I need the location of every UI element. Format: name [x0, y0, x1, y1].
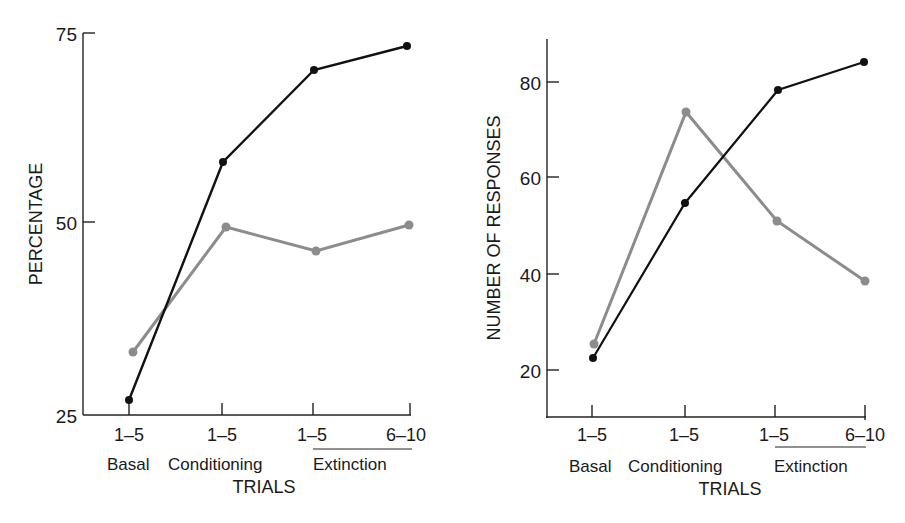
figure: 75 50 25 1–5 1–5 1–5 6–10 Basal Conditio…: [0, 0, 905, 523]
left-xtick-label: 6–10: [386, 425, 426, 445]
left-black-point: [219, 158, 227, 166]
right-black-series-line: [593, 62, 864, 358]
left-black-series-line: [129, 46, 407, 400]
left-gray-series-line: [133, 225, 409, 352]
right-xtick-label: 6–10: [845, 425, 885, 445]
left-phase-basal: Basal: [107, 455, 150, 474]
right-black-point: [774, 86, 782, 94]
left-black-point: [125, 396, 133, 404]
left-ytick-label: 25: [56, 406, 77, 427]
right-gray-series-line: [594, 112, 865, 344]
left-phase-extinction: Extinction: [313, 455, 387, 474]
left-chart: 75 50 25 1–5 1–5 1–5 6–10 Basal Conditio…: [26, 24, 426, 497]
left-gray-point: [222, 223, 231, 232]
right-ytick-label: 80: [520, 73, 541, 94]
right-ytick-label: 20: [520, 361, 541, 382]
left-black-point: [310, 66, 318, 74]
right-ytick-label: 60: [520, 168, 541, 189]
right-gray-point: [590, 340, 599, 349]
right-xtick-label: 1–5: [669, 425, 699, 445]
left-xtick-label: 1–5: [207, 425, 237, 445]
left-gray-point: [129, 348, 138, 357]
left-black-point: [403, 42, 411, 50]
left-gray-point: [312, 247, 321, 256]
right-ytick-label: 40: [520, 265, 541, 286]
right-gray-point: [861, 277, 870, 286]
right-phase-basal: Basal: [569, 457, 612, 476]
right-x-axis-title: TRIALS: [698, 479, 761, 499]
right-phase-conditioning: Conditioning: [628, 457, 723, 476]
right-gray-point: [773, 217, 782, 226]
right-black-point: [860, 58, 868, 66]
left-xtick-label: 1–5: [114, 425, 144, 445]
left-ytick-label: 50: [56, 213, 77, 234]
right-xtick-label: 1–5: [759, 425, 789, 445]
left-ytick-label: 75: [56, 24, 77, 45]
left-y-axis-title: PERCENTAGE: [26, 163, 46, 286]
right-xtick-label: 1–5: [577, 425, 607, 445]
right-chart: 80 60 40 20 1–5 1–5 1–5 6–10 Basal Condi…: [484, 39, 885, 499]
left-gray-point: [405, 221, 414, 230]
left-x-axis-title: TRIALS: [232, 477, 295, 497]
left-phase-conditioning: Conditioning: [168, 455, 263, 474]
left-xtick-label: 1–5: [297, 425, 327, 445]
right-y-axis-title: NUMBER OF RESPONSES: [484, 115, 504, 340]
right-black-point: [589, 354, 597, 362]
right-phase-extinction: Extinction: [774, 457, 848, 476]
right-black-point: [681, 199, 689, 207]
right-gray-point: [682, 108, 691, 117]
